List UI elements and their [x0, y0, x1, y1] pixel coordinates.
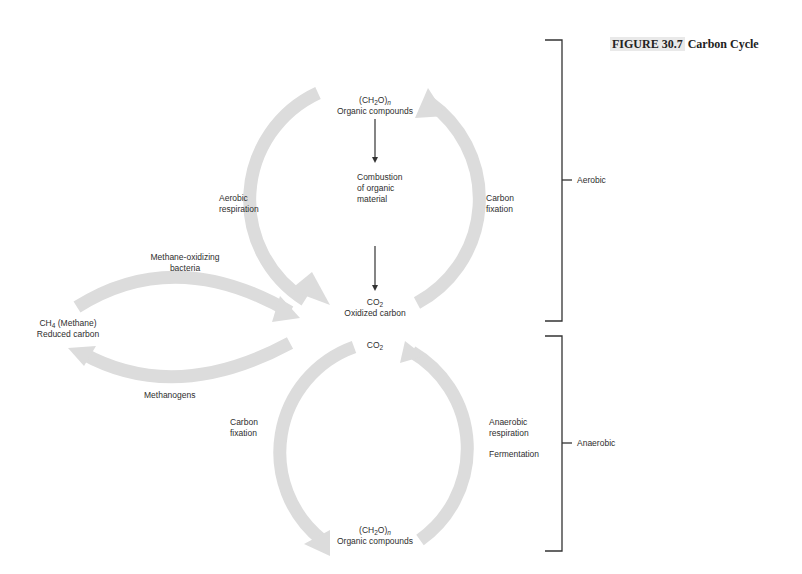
node-lower-co2: CO2	[360, 340, 390, 351]
methanogens-arrow	[68, 343, 290, 377]
process-carbon-fixation-top: Carbon fixation	[486, 193, 514, 215]
anaerobic-bracket	[545, 336, 572, 551]
figure-caption: Carbon Cycle	[688, 37, 759, 51]
bottom-organic-formula: (CH2O)n	[320, 525, 430, 536]
bottom-organic-label: Organic compounds	[320, 536, 430, 547]
process-fermentation: Fermentation	[489, 449, 539, 460]
methane-formula: CH4 (Methane)	[28, 318, 108, 329]
co2-formula: CO2	[320, 297, 430, 308]
aerobic-bracket	[545, 40, 572, 321]
process-combustion: Combustion of organic material	[357, 172, 402, 205]
methane-label: Reduced carbon	[28, 329, 108, 340]
carbon-cycle-diagram	[0, 0, 802, 574]
top-organic-formula: (CH2O)n	[320, 95, 430, 106]
co2-label: Oxidized carbon	[320, 308, 430, 319]
aerobic-respiration-arrow	[250, 93, 330, 305]
bracket-label-anaerobic: Anaerobic	[577, 438, 615, 449]
process-methanogens: Methanogens	[144, 390, 196, 401]
bracket-label-aerobic: Aerobic	[577, 175, 606, 186]
node-methane: CH4 (Methane) Reduced carbon	[28, 318, 108, 340]
figure-title: FIGURE 30.7 Carbon Cycle	[610, 37, 759, 52]
top-organic-label: Organic compounds	[320, 106, 430, 117]
node-bottom-organic: (CH2O)n Organic compounds	[320, 525, 430, 547]
anaerobic-respiration-arrow	[400, 341, 467, 540]
figure-number: FIGURE 30.7	[610, 37, 685, 51]
node-top-organic: (CH2O)n Organic compounds	[320, 95, 430, 117]
carbon-fixation-top-arrow	[415, 88, 479, 303]
process-aerobic-respiration: Aerobic respiration	[219, 193, 259, 215]
process-carbon-fixation-bottom: Carbon fixation	[230, 417, 258, 439]
process-methane-oxidizing: Methane-oxidizing bacteria	[130, 252, 240, 274]
node-oxidized-co2: CO2 Oxidized carbon	[320, 297, 430, 319]
methane-oxidizing-arrow	[77, 277, 300, 322]
process-anaerobic-respiration: Anaerobic respiration	[489, 417, 529, 439]
